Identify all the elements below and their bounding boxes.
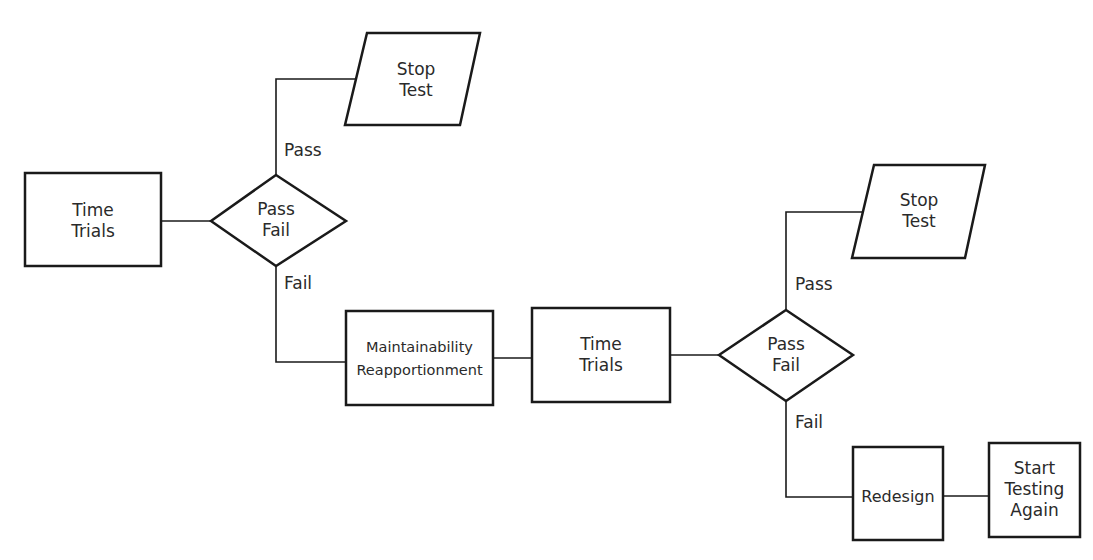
stop-test-2-line2: Test xyxy=(879,211,959,232)
stop-test-2-line1: Stop xyxy=(879,190,959,211)
edge-label-fail-2: Fail xyxy=(795,412,823,432)
decision-1-line2: Fail xyxy=(236,220,316,241)
decision-1-line1: Pass xyxy=(236,199,316,220)
time-trials-2-line2: Trials xyxy=(532,355,670,376)
edge-label-pass-1: Pass xyxy=(284,140,322,160)
time-trials-2-label: Time Trials xyxy=(532,334,670,376)
stop-test-1-label: Stop Test xyxy=(376,59,456,101)
maintainability-line1: Maintainability xyxy=(346,336,493,359)
decision-1-label: Pass Fail xyxy=(236,199,316,241)
redesign-line1: Redesign xyxy=(853,486,943,507)
stop-test-1-line2: Test xyxy=(376,80,456,101)
time-trials-1-line2: Trials xyxy=(25,221,161,242)
flowchart-canvas xyxy=(0,0,1093,560)
edge-label-fail-1: Fail xyxy=(284,273,312,293)
time-trials-2-line1: Time xyxy=(532,334,670,355)
maintainability-label: Maintainability Reapportionment xyxy=(346,336,493,382)
connector-decision-2-pass xyxy=(786,212,863,310)
time-trials-1-line1: Time xyxy=(25,200,161,221)
decision-2-line2: Fail xyxy=(746,355,826,376)
start-testing-again-label: Start Testing Again xyxy=(989,458,1080,521)
start-testing-again-line2: Testing xyxy=(989,479,1080,500)
stop-test-2-label: Stop Test xyxy=(879,190,959,232)
decision-2-label: Pass Fail xyxy=(746,334,826,376)
start-testing-again-line3: Again xyxy=(989,500,1080,521)
start-testing-again-line1: Start xyxy=(989,458,1080,479)
stop-test-1-line1: Stop xyxy=(376,59,456,80)
edge-label-pass-2: Pass xyxy=(795,274,833,294)
maintainability-line2: Reapportionment xyxy=(346,359,493,382)
decision-2-line1: Pass xyxy=(746,334,826,355)
time-trials-1-label: Time Trials xyxy=(25,200,161,242)
redesign-label: Redesign xyxy=(853,486,943,507)
connector-decision-1-pass xyxy=(276,79,356,175)
